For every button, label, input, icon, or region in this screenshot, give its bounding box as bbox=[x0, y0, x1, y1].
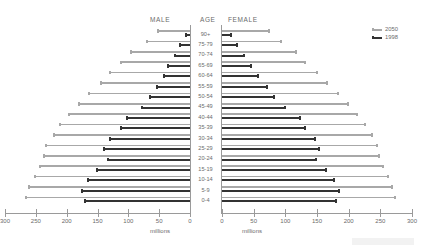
age-group-label: 65-69 bbox=[190, 62, 221, 68]
pyramid-row: 40-44 bbox=[0, 112, 422, 122]
bar-female-2050 bbox=[222, 197, 396, 199]
female-axis-tick-top bbox=[285, 209, 286, 213]
bar-cap-male-2050 bbox=[43, 154, 45, 157]
bar-male-2050 bbox=[88, 93, 190, 95]
male-axis-tick-label: 250 bbox=[31, 218, 41, 224]
male-axis-tick-label: 50 bbox=[156, 218, 163, 224]
bar-female-1998 bbox=[222, 96, 275, 98]
bar-cap-female-1998 bbox=[284, 106, 286, 110]
pyramid-row: 70-74 bbox=[0, 50, 422, 60]
bar-cap-female-1998 bbox=[325, 168, 327, 172]
pyramid-row: 5-9 bbox=[0, 185, 422, 195]
female-axis-tick-label: 250 bbox=[375, 218, 385, 224]
bar-female-1998 bbox=[222, 65, 252, 67]
bar-male-1998 bbox=[103, 148, 190, 150]
bar-cap-female-2050 bbox=[387, 175, 389, 178]
bar-cap-male-1998 bbox=[126, 116, 128, 120]
bar-female-1998 bbox=[222, 127, 306, 129]
bar-female-2050 bbox=[222, 93, 339, 95]
bar-female-1998 bbox=[222, 107, 286, 109]
male-axis-tick bbox=[159, 213, 160, 217]
bar-male-2050 bbox=[100, 82, 190, 84]
age-group-label: 60-64 bbox=[190, 72, 221, 78]
male-units-label: millions bbox=[150, 228, 170, 234]
population-pyramid-chart: MALE AGE FEMALE 90+75-7970-7465-6960-645… bbox=[0, 0, 422, 248]
bar-female-2050 bbox=[222, 165, 384, 167]
male-axis-tick-label: 300 bbox=[0, 218, 10, 224]
bar-cap-female-2050 bbox=[326, 81, 328, 84]
bar-cap-male-1998 bbox=[179, 43, 181, 47]
female-axis-tick-top bbox=[317, 209, 318, 213]
bar-female-1998 bbox=[222, 75, 259, 77]
age-group-label: 30-34 bbox=[190, 135, 221, 141]
bar-male-1998 bbox=[109, 138, 190, 140]
bar-cap-male-1998 bbox=[84, 199, 86, 203]
age-group-label: 15-19 bbox=[190, 166, 221, 172]
bar-male-1998 bbox=[163, 75, 190, 77]
bar-cap-male-1998 bbox=[96, 168, 98, 172]
bar-cap-male-1998 bbox=[141, 106, 143, 110]
bar-cap-male-2050 bbox=[39, 165, 41, 168]
male-axis-tick-label: 100 bbox=[123, 218, 133, 224]
pyramid-row: 30-34 bbox=[0, 133, 422, 143]
bar-cap-male-2050 bbox=[100, 81, 102, 84]
bar-male-2050 bbox=[25, 197, 190, 199]
bar-female-2050 bbox=[222, 186, 393, 188]
bar-female-1998 bbox=[222, 169, 327, 171]
bar-cap-male-2050 bbox=[34, 175, 36, 178]
bar-cap-male-2050 bbox=[109, 71, 111, 74]
pyramid-row: 90+ bbox=[0, 29, 422, 39]
age-group-label: 40-44 bbox=[190, 114, 221, 120]
bar-cap-female-1998 bbox=[230, 33, 232, 37]
male-axis-tick bbox=[67, 213, 68, 217]
pyramid-row: 20-24 bbox=[0, 154, 422, 164]
female-axis-tick-top bbox=[254, 209, 255, 213]
age-group-label: 25-29 bbox=[190, 145, 221, 151]
bar-cap-female-1998 bbox=[315, 158, 317, 162]
age-group-label: 5-9 bbox=[190, 187, 221, 193]
legend-label: 1998 bbox=[385, 34, 398, 40]
bar-cap-female-2050 bbox=[394, 196, 396, 199]
bar-female-1998 bbox=[222, 148, 320, 150]
bar-cap-male-1998 bbox=[103, 147, 105, 151]
age-group-label: 45-49 bbox=[190, 103, 221, 109]
male-axis-tick-top bbox=[159, 209, 160, 213]
pyramid-row: 55-59 bbox=[0, 81, 422, 91]
bar-male-1998 bbox=[87, 179, 190, 181]
pyramid-row: 50-54 bbox=[0, 91, 422, 101]
bar-cap-male-2050 bbox=[120, 61, 122, 64]
bar-cap-female-2050 bbox=[391, 185, 393, 188]
bar-cap-female-2050 bbox=[382, 165, 384, 168]
bar-female-2050 bbox=[222, 61, 306, 63]
bar-cap-male-2050 bbox=[157, 29, 159, 32]
bar-male-2050 bbox=[34, 176, 190, 178]
bar-female-1998 bbox=[222, 200, 337, 202]
female-axis-tick-label: 300 bbox=[407, 218, 417, 224]
female-axis-tick bbox=[285, 213, 286, 217]
footer-artifact bbox=[352, 238, 414, 245]
bar-female-2050 bbox=[222, 30, 270, 32]
bar-female-1998 bbox=[222, 138, 316, 140]
female-axis-tick-top bbox=[412, 209, 413, 213]
bar-cap-female-1998 bbox=[314, 137, 316, 141]
bar-male-1998 bbox=[81, 190, 190, 192]
bar-male-2050 bbox=[28, 186, 190, 188]
female-axis-tick bbox=[412, 213, 413, 217]
female-axis-tick-top bbox=[380, 209, 381, 213]
bar-cap-male-2050 bbox=[68, 113, 70, 116]
bar-female-2050 bbox=[222, 124, 366, 126]
male-axis-tick-top bbox=[5, 209, 6, 213]
bar-cap-female-1998 bbox=[236, 43, 238, 47]
bar-female-2050 bbox=[222, 72, 318, 74]
pyramid-row: 35-39 bbox=[0, 123, 422, 133]
male-axis-tick-top bbox=[67, 209, 68, 213]
age-group-label: 50-54 bbox=[190, 93, 221, 99]
bar-male-2050 bbox=[157, 30, 190, 32]
bar-male-2050 bbox=[146, 41, 190, 43]
bar-female-2050 bbox=[222, 155, 380, 157]
pyramid-row: 45-49 bbox=[0, 102, 422, 112]
bar-cap-female-2050 bbox=[337, 92, 339, 95]
bar-female-1998 bbox=[222, 159, 317, 161]
bar-female-2050 bbox=[222, 41, 282, 43]
bar-cap-female-2050 bbox=[364, 123, 366, 126]
